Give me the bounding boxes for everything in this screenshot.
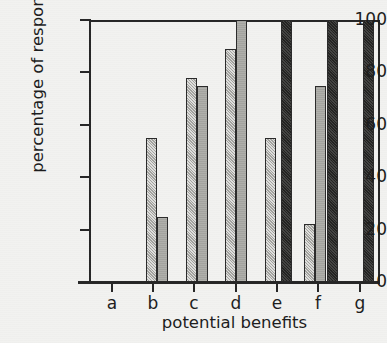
x-tick-mark	[359, 282, 361, 292]
y-tick-mark	[80, 71, 91, 73]
y-tick-label: 40	[313, 168, 387, 185]
bar-c-series-2	[197, 86, 208, 283]
bar-e-series-1	[265, 138, 276, 282]
bar-e-series-3	[281, 20, 292, 282]
x-tick-label: b	[133, 293, 173, 313]
y-tick-mark	[80, 229, 91, 231]
bars-layer	[89, 20, 380, 282]
x-tick-label: a	[92, 293, 132, 313]
bar-f-series-3	[327, 20, 338, 282]
bar-b-series-2	[157, 217, 168, 283]
x-tick-mark	[152, 282, 154, 292]
x-tick-label: g	[340, 293, 380, 313]
x-tick-label: f	[298, 293, 338, 313]
x-tick-mark	[193, 282, 195, 292]
x-tick-mark	[317, 282, 319, 292]
y-tick-mark	[80, 176, 91, 178]
bar-chart: percentage of respondents 100806040200 a…	[0, 0, 387, 343]
y-tick-label: 100	[313, 11, 387, 28]
y-tick-label: 80	[313, 63, 387, 80]
bar-d-series-1	[225, 49, 236, 282]
x-tick-mark	[111, 282, 113, 292]
x-tick-mark	[235, 282, 237, 292]
x-tick-label: e	[257, 293, 297, 313]
y-tick-mark	[80, 124, 91, 126]
y-tick-label: 0	[313, 273, 387, 290]
y-axis-title: percentage of respondents	[28, 0, 47, 187]
y-tick-mark	[80, 19, 91, 21]
y-tick-label: 20	[313, 221, 387, 238]
x-tick-label: d	[216, 293, 256, 313]
x-tick-label: c	[174, 293, 214, 313]
x-axis-title: potential benefits	[89, 313, 380, 332]
x-tick-mark	[276, 282, 278, 292]
y-tick-mark	[80, 281, 91, 283]
bar-d-series-2	[236, 20, 247, 282]
bar-c-series-1	[186, 78, 197, 282]
bar-g-series-3	[363, 20, 374, 282]
y-tick-label: 60	[313, 116, 387, 133]
bar-b-series-1	[146, 138, 157, 282]
